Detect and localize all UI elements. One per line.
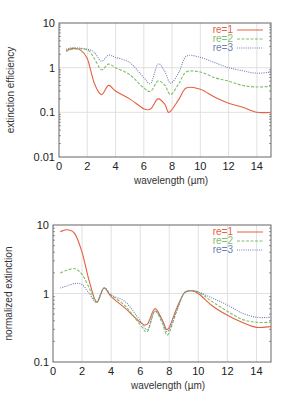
- y-tick-label: 0.1: [34, 356, 49, 368]
- series-line-re1: [60, 230, 271, 330]
- y-tick-label: 10: [43, 17, 55, 29]
- y-axis-label: extinction efficiency: [5, 47, 16, 134]
- figure: 024681012140.010.1110wavelength (µm)exti…: [0, 0, 289, 407]
- x-tick-label: 10: [194, 160, 206, 172]
- series-line-re1: [66, 48, 271, 112]
- x-tick-label: 0: [50, 365, 56, 377]
- x-tick-label: 8: [169, 160, 175, 172]
- x-tick-label: 4: [112, 160, 118, 172]
- legend-label: re=3: [213, 244, 234, 255]
- x-tick-label: 12: [221, 365, 233, 377]
- y-tick-label: 0.1: [40, 106, 55, 118]
- x-tick-label: 14: [251, 160, 263, 172]
- plot-frame: [59, 23, 271, 157]
- x-tick-label: 14: [250, 365, 262, 377]
- y-tick-label: 1: [43, 288, 49, 300]
- series-line-re3: [66, 48, 271, 84]
- x-tick-label: 6: [141, 160, 147, 172]
- series-line-re2: [60, 269, 271, 335]
- y-tick-label: 1: [49, 62, 55, 74]
- x-tick-label: 0: [56, 160, 62, 172]
- x-tick-label: 12: [222, 160, 234, 172]
- x-axis-label: wavelength (µm): [130, 380, 205, 391]
- y-tick-label: 0.01: [34, 151, 55, 163]
- x-tick-label: 10: [192, 365, 204, 377]
- extinction-efficiency-chart: 024681012140.010.1110wavelength (µm)exti…: [5, 17, 271, 186]
- x-tick-label: 4: [108, 365, 114, 377]
- x-tick-label: 2: [79, 365, 85, 377]
- y-axis-label: normalized extinction: [3, 247, 14, 341]
- x-axis-label: wavelength (µm): [133, 175, 208, 186]
- normalized-extinction-chart: 024681012140.1110wavelength (µm)normaliz…: [3, 219, 271, 391]
- x-tick-label: 6: [137, 365, 143, 377]
- legend-label: re=3: [213, 42, 234, 53]
- x-tick-label: 2: [84, 160, 90, 172]
- y-tick-label: 10: [37, 219, 49, 231]
- x-tick-label: 8: [166, 365, 172, 377]
